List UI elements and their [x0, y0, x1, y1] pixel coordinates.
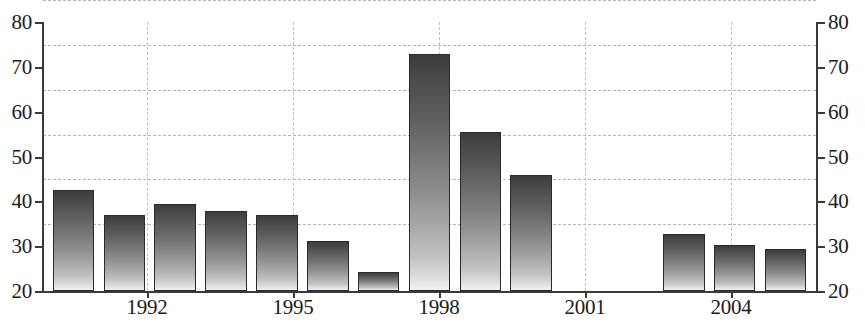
x-axis-label-1992: 1992 [127, 297, 168, 318]
x-axis-label-1995: 1995 [273, 297, 314, 318]
y-tick-right-40 [818, 201, 825, 203]
y-axis-right-label-30: 30 [828, 236, 848, 257]
y-tick-right-20 [818, 291, 825, 293]
bar-2004 [714, 245, 756, 291]
y-axis-right-label-80: 80 [828, 12, 848, 33]
y-tick-left-30 [35, 246, 42, 248]
bar-2000 [510, 175, 552, 291]
y-axis-left-label-30: 30 [12, 236, 32, 257]
bar-1997 [358, 272, 400, 291]
y-tick-right-70 [818, 67, 825, 69]
y-tick-right-80 [818, 22, 825, 24]
y-tick-left-20 [35, 291, 42, 293]
gridline-horizontal-80 [43, 0, 816, 1]
y-axis-left-label-20: 20 [12, 281, 32, 302]
y-tick-left-40 [35, 201, 42, 203]
y-tick-right-30 [818, 246, 825, 248]
bar-2005 [765, 249, 807, 291]
x-axis-label-2004: 2004 [711, 297, 752, 318]
bar-1995 [256, 215, 298, 291]
y-axis-left-label-70: 70 [12, 57, 32, 78]
x-axis-spine [42, 291, 818, 293]
y-axis-left-label-40: 40 [12, 191, 32, 212]
y-axis-left-label-80: 80 [12, 12, 32, 33]
y-tick-right-50 [818, 157, 825, 159]
y-tick-left-80 [35, 22, 42, 24]
y-axis-right-label-50: 50 [828, 147, 848, 168]
y-axis-right-label-60: 60 [828, 102, 848, 123]
bar-2003 [663, 234, 705, 291]
y-tick-left-60 [35, 112, 42, 114]
y-axis-left-label-60: 60 [12, 102, 32, 123]
bar-1996 [307, 241, 349, 291]
y-tick-left-50 [35, 157, 42, 159]
y-axis-right-label-40: 40 [828, 191, 848, 212]
bar-1999 [460, 132, 502, 291]
x-axis-label-2001: 2001 [565, 297, 606, 318]
y-axis-right-label-20: 20 [828, 281, 848, 302]
bars-container [43, 22, 816, 291]
y-tick-left-70 [35, 67, 42, 69]
y-tick-right-60 [818, 112, 825, 114]
bar-1994 [205, 211, 247, 291]
y-axis-left-label-50: 50 [12, 147, 32, 168]
y-axis-right-label-70: 70 [828, 57, 848, 78]
bar-1998 [409, 54, 451, 291]
bar-1991 [53, 190, 95, 291]
bar-1993 [154, 204, 196, 291]
x-axis-label-1998: 1998 [419, 297, 460, 318]
bar-chart: 80 70 60 50 40 30 20 80 70 60 50 40 30 2… [0, 0, 865, 324]
bar-1992 [104, 215, 146, 291]
y-axis-left-spine [42, 22, 44, 292]
